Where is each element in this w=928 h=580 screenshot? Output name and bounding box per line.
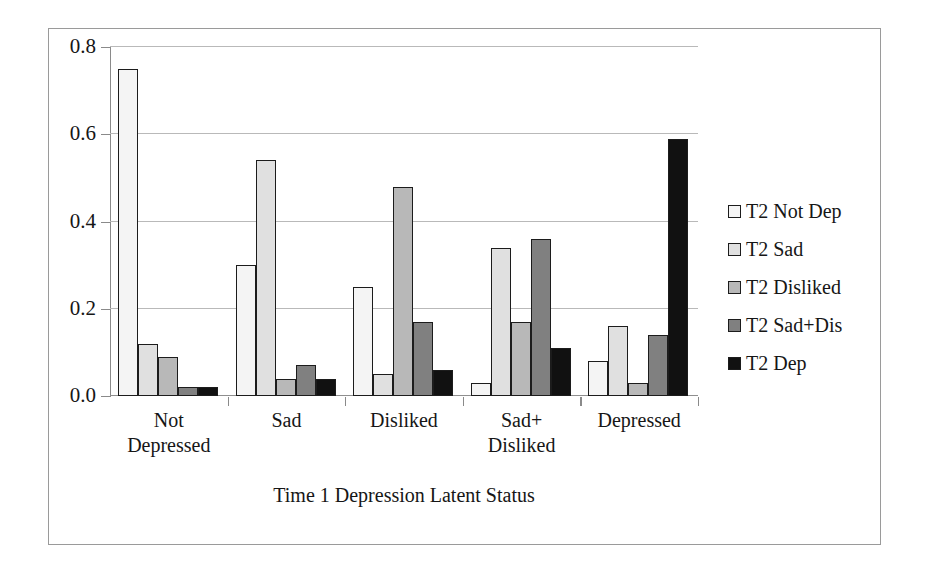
legend-swatch-icon [728,357,741,370]
y-axis-tick-label: 0.2 [40,298,96,319]
legend-label: T2 Not Dep [746,201,842,221]
legend-label: T2 Sad+Dis [746,315,842,335]
bar[interactable] [353,287,373,396]
category-label-line: Sad [228,408,346,433]
x-axis-category-label: Sad+Disliked [463,408,581,458]
y-axis-tick-label: 0.6 [40,123,96,144]
category-label-line: Sad+ [463,408,581,433]
bar-group [471,47,571,396]
bar[interactable] [138,344,158,396]
bar[interactable] [236,265,256,396]
x-axis-tick [463,397,464,406]
bar[interactable] [198,387,218,396]
figure: 0.00.20.40.60.8 NotDepressedSadDislikedS… [0,0,928,580]
y-axis-tick [101,309,110,310]
bar[interactable] [531,239,551,396]
x-axis-category-label: Sad [228,408,346,433]
category-label-line: Depressed [580,408,698,433]
plot-area [110,47,698,396]
y-axis-tick [101,134,110,135]
bar[interactable] [373,374,393,396]
x-axis-category-label: NotDepressed [110,408,228,458]
bar[interactable] [178,387,198,396]
legend-item[interactable]: T2 Dep [728,344,918,382]
bar[interactable] [393,187,413,396]
bar[interactable] [276,379,296,396]
y-axis-tick-label: 0.8 [40,36,96,57]
bar[interactable] [433,370,453,396]
legend-item[interactable]: T2 Sad+Dis [728,306,918,344]
bar[interactable] [256,160,276,396]
category-label-line: Disliked [345,408,463,433]
legend-swatch-icon [728,319,741,332]
legend: T2 Not DepT2 SadT2 DislikedT2 Sad+DisT2 … [728,192,918,382]
x-axis-category-label: Disliked [345,408,463,433]
y-axis-tick [101,396,110,397]
bar[interactable] [296,365,316,396]
legend-swatch-icon [728,205,741,218]
x-axis-tick [698,397,699,406]
bar[interactable] [511,322,531,396]
y-axis-tick [101,47,110,48]
category-label-line: Depressed [110,433,228,458]
legend-swatch-icon [728,243,741,256]
x-axis-title: Time 1 Depression Latent Status [110,483,698,507]
bar[interactable] [551,348,571,396]
x-axis-tick [580,397,581,406]
y-axis-tick-label: 0.4 [40,211,96,232]
bar[interactable] [413,322,433,396]
bar[interactable] [668,139,688,396]
bar[interactable] [628,383,648,396]
bar[interactable] [158,357,178,396]
bar[interactable] [608,326,628,396]
bar[interactable] [648,335,668,396]
legend-item[interactable]: T2 Disliked [728,268,918,306]
bar[interactable] [316,379,336,396]
legend-label: T2 Dep [746,353,807,373]
y-axis-tick-label: 0.0 [40,385,96,406]
x-axis-category-label: Depressed [580,408,698,433]
legend-swatch-icon [728,281,741,294]
legend-item[interactable]: T2 Not Dep [728,192,918,230]
bar-group [236,47,336,396]
bar[interactable] [588,361,608,396]
bar-group [118,47,218,396]
category-label-line: Not [110,408,228,433]
legend-label: T2 Sad [746,239,803,259]
y-axis-labels: 0.00.20.40.60.8 [34,0,96,580]
y-axis-tick [101,222,110,223]
x-axis-tick [345,397,346,406]
bar[interactable] [471,383,491,396]
bar[interactable] [491,248,511,396]
bar-group [353,47,453,396]
x-axis-category-labels: NotDepressedSadDislikedSad+DislikedDepre… [110,408,698,470]
legend-label: T2 Disliked [746,277,841,297]
bar-group [588,47,688,396]
category-label-line: Disliked [463,433,581,458]
legend-item[interactable]: T2 Sad [728,230,918,268]
bar[interactable] [118,69,138,396]
x-axis-tick [228,397,229,406]
